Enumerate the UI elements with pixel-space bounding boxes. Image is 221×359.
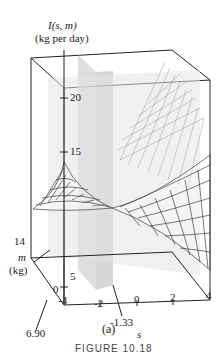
m-axis-label: m: [18, 251, 26, 263]
s-tick-0: 0: [134, 293, 140, 305]
s-tick-2: 2: [170, 291, 176, 303]
m-tick-5: 5: [70, 270, 76, 282]
m-plane-label: 6.90: [26, 327, 45, 339]
m-axis-units: (kg): [9, 264, 27, 276]
m-tick-14: 14: [14, 235, 25, 247]
s-tick-4: 4: [206, 289, 212, 301]
surface-plot: [0, 0, 221, 359]
subfigure-label: (a): [102, 322, 115, 337]
z-axis-units: (kg per day): [35, 32, 89, 44]
z-axis-label: I(s, m): [48, 19, 77, 31]
figure-caption: FIGURE 10.18: [75, 343, 153, 354]
z-tick-15: 15: [70, 145, 81, 157]
s-tick-minus4: -4: [58, 294, 67, 306]
s-axis-label: s: [137, 328, 141, 340]
s-tick-minus2: -2: [94, 297, 103, 309]
z-tick-20: 20: [70, 91, 81, 103]
figure-10-18: I(s, m) (kg per day) 20 15 14 m (kg) 5 0…: [0, 0, 221, 359]
